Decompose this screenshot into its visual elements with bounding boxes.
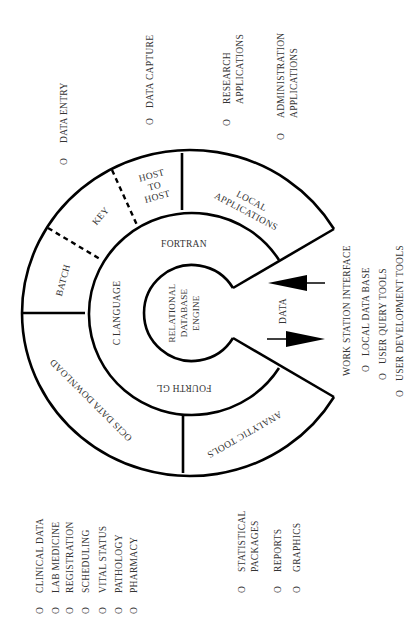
svg-text:PATHOLOGY: PATHOLOGY bbox=[114, 534, 124, 593]
svg-text:REPORTS: REPORTS bbox=[273, 529, 283, 572]
batch-label: BATCH bbox=[54, 263, 72, 297]
svg-text:O: O bbox=[65, 607, 75, 614]
svg-text:O: O bbox=[237, 586, 247, 593]
svg-text:RELATIONAL: RELATIONAL bbox=[167, 284, 177, 343]
svg-text:VITAL STATUS: VITAL STATUS bbox=[98, 526, 108, 593]
architecture-diagram: DATA RELATIONAL DATABASE ENGINE FORTRAN … bbox=[0, 0, 416, 638]
workstation-interface-label: WORK STATION INTERFACE O LOCAL DATA BASE… bbox=[342, 245, 405, 397]
svg-text:DATA CAPTURE: DATA CAPTURE bbox=[145, 35, 155, 108]
c-language-label: C LANGUAGE bbox=[112, 281, 122, 345]
ocis-data-download-label: OCIS DATA DOWNLOAD bbox=[48, 357, 134, 443]
svg-text:O: O bbox=[273, 586, 283, 593]
lower-mouth-edge bbox=[233, 338, 334, 397]
data-in-arrow bbox=[268, 275, 325, 291]
svg-text:APPLICATIONS: APPLICATIONS bbox=[289, 48, 299, 118]
svg-text:RESEARCH: RESEARCH bbox=[222, 52, 232, 104]
svg-text:O: O bbox=[222, 119, 232, 126]
svg-text:O: O bbox=[114, 607, 124, 614]
svg-text:PHARMACY: PHARMACY bbox=[129, 537, 139, 593]
label-administration-applications: O ADMINISTRATION APPLICATIONS bbox=[276, 33, 299, 140]
svg-text:HOST: HOST bbox=[143, 188, 171, 204]
data-out-arrow bbox=[267, 331, 325, 347]
svg-text:O: O bbox=[35, 607, 45, 614]
svg-text:GRAPHICS: GRAPHICS bbox=[292, 523, 302, 572]
svg-text:LAB MEDICINE: LAB MEDICINE bbox=[51, 522, 61, 593]
svg-text:O: O bbox=[145, 118, 155, 125]
ocis-source-list: O CLINICAL DATA O LAB MEDICINE O REGISTR… bbox=[35, 518, 139, 614]
core-label: RELATIONAL DATABASE ENGINE bbox=[167, 284, 201, 343]
svg-text:O: O bbox=[395, 390, 405, 397]
svg-text:O: O bbox=[378, 373, 388, 380]
analytic-tools-label: ANALYTIC TOOLS bbox=[205, 409, 283, 460]
fortran-label: FORTRAN bbox=[161, 239, 207, 249]
svg-text:PACKAGES: PACKAGES bbox=[250, 520, 260, 572]
svg-text:WORK STATION INTERFACE: WORK STATION INTERFACE bbox=[342, 245, 352, 376]
svg-text:O: O bbox=[292, 586, 302, 593]
key-label: KEY bbox=[90, 205, 111, 227]
analytic-tools-list: O STATISTICAL PACKAGES O REPORTS O GRAPH… bbox=[237, 510, 302, 593]
local-applications-label: LOCAL APPLICATIONS bbox=[213, 180, 285, 232]
host-to-host-label: HOST TO HOST bbox=[138, 167, 171, 205]
label-research-applications: O RESEARCH APPLICATIONS bbox=[222, 34, 245, 126]
svg-text:DATABASE: DATABASE bbox=[179, 288, 189, 337]
svg-text:O: O bbox=[51, 607, 61, 614]
svg-text:O: O bbox=[59, 158, 69, 165]
svg-text:O: O bbox=[81, 607, 91, 614]
svg-text:STATISTICAL: STATISTICAL bbox=[237, 510, 247, 572]
svg-text:USER QUERY TOOLS: USER QUERY TOOLS bbox=[378, 268, 388, 364]
upper-mouth-edge bbox=[233, 229, 334, 288]
svg-text:O: O bbox=[129, 607, 139, 614]
dashed-divider-batch-key bbox=[48, 228, 100, 259]
svg-text:O: O bbox=[361, 365, 371, 372]
svg-text:DATA ENTRY: DATA ENTRY bbox=[59, 82, 69, 143]
svg-text:O: O bbox=[98, 607, 108, 614]
svg-text:SCHEDULING: SCHEDULING bbox=[81, 529, 91, 593]
svg-text:APPLICATIONS: APPLICATIONS bbox=[235, 34, 245, 104]
label-data-capture: O DATA CAPTURE bbox=[145, 35, 155, 125]
label-data-entry: O DATA ENTRY bbox=[59, 82, 69, 165]
svg-text:ADMINISTRATION: ADMINISTRATION bbox=[276, 33, 286, 118]
svg-text:USER DEVELOPMENT TOOLS: USER DEVELOPMENT TOOLS bbox=[395, 245, 405, 381]
svg-text:O: O bbox=[276, 133, 286, 140]
svg-text:CLINICAL DATA: CLINICAL DATA bbox=[35, 518, 45, 593]
svg-text:LOCAL DATA BASE: LOCAL DATA BASE bbox=[361, 267, 371, 356]
svg-text:ENGINE: ENGINE bbox=[191, 295, 201, 330]
svg-text:REGISTRATION: REGISTRATION bbox=[65, 521, 75, 593]
dashed-divider-key-host bbox=[112, 170, 137, 225]
data-flow-label: DATA bbox=[278, 298, 288, 324]
fourth-gl-label: FOURTH GL bbox=[156, 383, 211, 393]
